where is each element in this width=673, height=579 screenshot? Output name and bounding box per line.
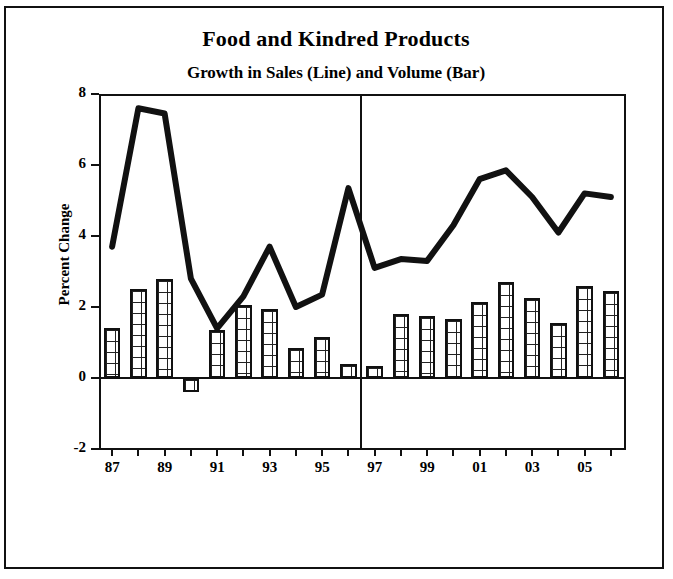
y-tick-label: 0 xyxy=(46,368,86,385)
y-tick-label: 8 xyxy=(46,84,86,101)
x-tick-label: 89 xyxy=(145,459,185,476)
x-tick-label: 05 xyxy=(565,459,605,476)
y-tick-mark xyxy=(91,306,99,308)
x-tick-label: 99 xyxy=(407,459,447,476)
y-tick-mark xyxy=(91,93,99,95)
x-tick-label: 95 xyxy=(302,459,342,476)
chart-subtitle: Growth in Sales (Line) and Volume (Bar) xyxy=(6,63,666,83)
chart-frame: Food and Kindred Products Growth in Sale… xyxy=(4,6,664,569)
y-tick-mark xyxy=(91,235,99,237)
y-tick-label: 2 xyxy=(46,297,86,314)
y-tick-mark xyxy=(91,164,99,166)
y-tick-label: 4 xyxy=(46,226,86,243)
x-tick-label: 01 xyxy=(460,459,500,476)
y-tick-label: 6 xyxy=(46,155,86,172)
sales-line-path xyxy=(112,108,611,328)
y-tick-label: -2 xyxy=(46,439,86,456)
x-tick-label: 91 xyxy=(197,459,237,476)
x-tick-label: 03 xyxy=(512,459,552,476)
line-series-sales xyxy=(99,94,626,450)
y-tick-mark xyxy=(91,377,99,379)
x-tick-label: 87 xyxy=(92,459,132,476)
y-axis-labels: 86420-2 xyxy=(34,8,86,579)
chart-title: Food and Kindred Products xyxy=(6,26,666,52)
x-tick-label: 97 xyxy=(355,459,395,476)
x-tick-label: 93 xyxy=(250,459,290,476)
y-tick-mark xyxy=(91,448,99,450)
